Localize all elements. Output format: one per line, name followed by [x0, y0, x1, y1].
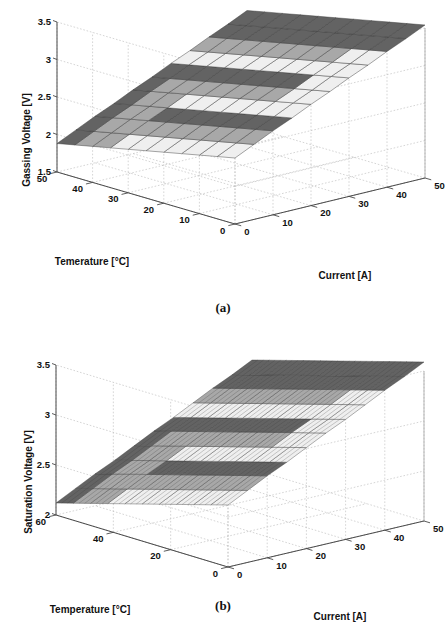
x-tick-label: 40 [72, 183, 83, 194]
z-tickmark [53, 96, 57, 98]
x-tick-label: 60 [36, 516, 47, 527]
x-tickmark [86, 182, 93, 184]
y-tick-label: 0 [244, 226, 249, 237]
x-tickmark [50, 172, 57, 174]
y-tick-label: 50 [433, 523, 444, 534]
y-axis [228, 521, 424, 567]
y-tickmark [235, 224, 241, 226]
plot-panel-a: 3.532.521.55040302010001020304050Gassing… [0, 0, 446, 318]
caption-a: (a) [0, 300, 446, 316]
y-axis-title: Current [A] [319, 270, 372, 281]
z-tickmark [52, 464, 56, 466]
y-tick-label: 0 [237, 569, 242, 580]
y-tick-label: 50 [434, 180, 445, 191]
y-tickmark [228, 567, 234, 569]
x-tick-label: 10 [179, 214, 190, 225]
x-tick-label: 50 [37, 173, 48, 184]
y-tickmark [349, 196, 355, 198]
z-tick-label: 2.5 [37, 459, 51, 470]
x-tickmark [106, 532, 113, 534]
y-tick-label: 10 [282, 217, 293, 228]
y-tickmark [424, 521, 430, 523]
floor-gridline [133, 154, 311, 206]
floor-gridline [171, 504, 367, 550]
x-tickmark [193, 214, 200, 216]
z-axis-title: Saturation Voltage [V] [23, 430, 34, 534]
x-axis-title: Temerature [°C] [55, 256, 129, 267]
y-tickmark [306, 549, 312, 551]
y-tickmark [273, 215, 279, 217]
y-tickmark [267, 558, 273, 560]
right-wall-gridline [235, 141, 425, 187]
z-tick-label: 3 [45, 409, 50, 420]
surface-plot-b: 3.532.52604020001020304050Saturation Vol… [0, 330, 446, 623]
x-tickmark [164, 550, 171, 552]
x-tickmark [157, 203, 164, 205]
y-tickmark [425, 178, 431, 180]
y-tick-label: 30 [358, 198, 369, 209]
y-tick-label: 30 [355, 541, 366, 552]
plot-panel-b: 3.532.52604020001020304050Saturation Vol… [0, 330, 446, 623]
surface-layer [56, 360, 424, 505]
x-tickmark [221, 567, 228, 569]
floor-gridline [247, 126, 425, 178]
z-tick-label: 3.5 [38, 16, 52, 27]
z-tickmark [52, 364, 56, 366]
z-axis-title: Gassing Voltage [V] [21, 93, 32, 187]
figure-container: 3.532.521.55040302010001020304050Gassing… [0, 0, 446, 623]
x-tick-label: 0 [213, 568, 218, 579]
y-tickmark [311, 206, 317, 208]
y-tick-label: 20 [315, 550, 326, 561]
caption-b: (b) [0, 598, 446, 614]
z-tick-label: 3.5 [37, 359, 51, 370]
x-tickmark [228, 224, 235, 226]
x-tick-label: 20 [144, 204, 155, 215]
z-tickmark [52, 414, 56, 416]
y-tickmark [387, 187, 393, 189]
z-tickmark [53, 58, 57, 60]
z-tick-label: 3 [46, 54, 51, 65]
y-tickmark [346, 539, 352, 541]
x-tick-label: 0 [220, 225, 225, 236]
z-tick-label: 2.5 [38, 91, 52, 102]
x-tickmark [122, 193, 129, 195]
x-axis [56, 515, 228, 567]
y-tick-label: 20 [320, 207, 331, 218]
x-axis [57, 172, 235, 224]
z-tick-label: 2 [46, 129, 51, 140]
y-tick-label: 40 [396, 189, 407, 200]
surface-layer [57, 11, 425, 159]
floor-gridline [164, 157, 354, 203]
x-tick-label: 30 [108, 193, 119, 204]
y-tickmark [385, 530, 391, 532]
floor-gridline [95, 163, 273, 215]
y-tick-label: 10 [276, 560, 287, 571]
x-tick-label: 20 [150, 550, 161, 561]
z-tickmark [53, 21, 57, 23]
z-tickmark [53, 133, 57, 135]
x-tick-label: 40 [93, 533, 104, 544]
surface-plot-a: 3.532.521.55040302010001020304050Gassing… [0, 0, 446, 318]
x-tickmark [49, 515, 56, 517]
y-tick-label: 40 [394, 532, 405, 543]
